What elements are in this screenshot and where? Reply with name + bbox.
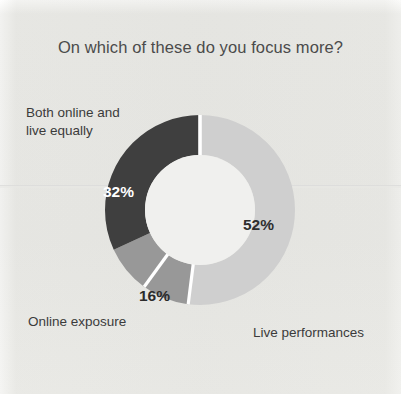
slice-value-live-performances: 52% (243, 216, 274, 234)
slice-label-live-performances: Live performances (253, 324, 364, 342)
slice-value-both-equally: 32% (103, 183, 134, 201)
slice-value-online-exposure: 16% (139, 287, 170, 305)
slice-label-online-exposure: Online exposure (28, 313, 126, 331)
slice-label-both-equally-line2: live equally (26, 122, 120, 140)
slice-label-both-equally: Both online and live equally (26, 104, 120, 140)
donut-hole (145, 155, 255, 265)
chart-title: On which of these do you focus more? (0, 38, 401, 57)
donut-chart (105, 115, 295, 305)
chart-figure: On which of these do you focus more? (0, 0, 401, 394)
donut-svg (105, 115, 295, 305)
slice-label-both-equally-line1: Both online and (26, 104, 120, 122)
